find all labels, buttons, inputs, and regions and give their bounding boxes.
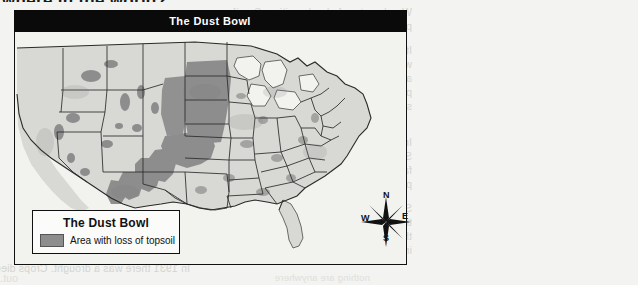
compass-label-west: W (361, 213, 370, 223)
compass-label-east: E (402, 211, 408, 221)
showthrough-line: nothing are anywhere (275, 272, 370, 283)
legend-label-topsoil: Area with loss of topsoil (70, 235, 175, 246)
map-figure: The Dust Bowl (14, 10, 407, 265)
map-legend: The Dust Bowl Area with loss of topsoil (32, 210, 180, 254)
compass-rose: N E S W (355, 191, 417, 253)
map-title: The Dust Bowl (169, 15, 251, 27)
legend-swatch-topsoil (40, 234, 64, 247)
legend-entry: Area with loss of topsoil (40, 234, 172, 247)
compass-label-south: S (383, 233, 389, 243)
legend-title: The Dust Bowl (40, 216, 172, 230)
map-title-bar: The Dust Bowl (14, 10, 407, 32)
compass-label-north: N (383, 190, 390, 200)
page-heading: where in the world? (2, 0, 167, 2)
showthrough-line: out. Then the wind started blowing (0, 272, 18, 284)
